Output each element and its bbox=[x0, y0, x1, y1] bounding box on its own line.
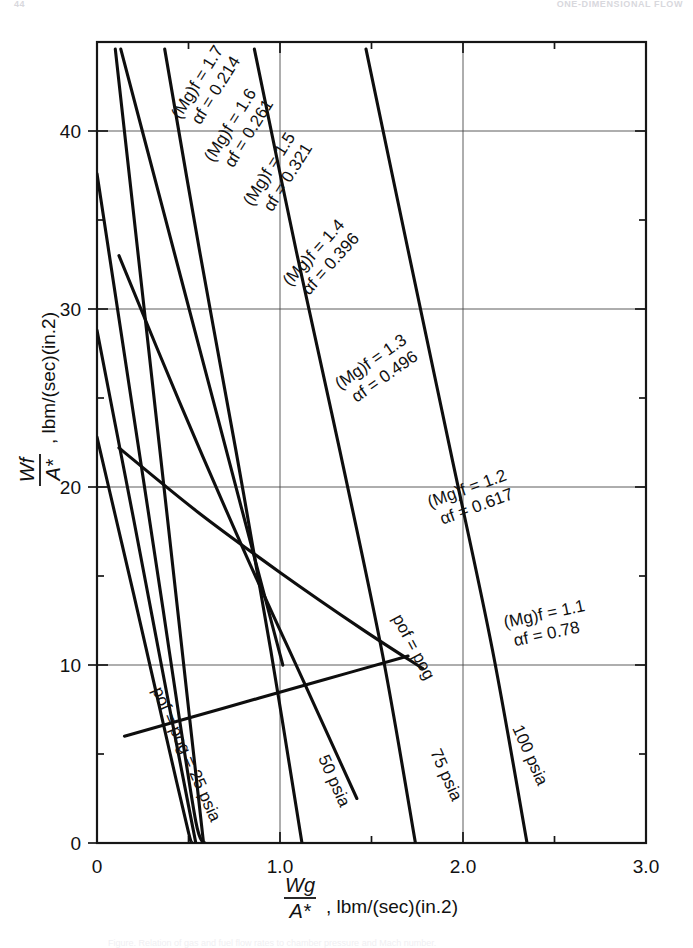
x-axis-tick-labels: 01.02.03.0 bbox=[92, 856, 660, 877]
y-tick-label: 30 bbox=[60, 299, 81, 320]
curve-Mg_f_1.3 bbox=[119, 256, 357, 799]
x-tick-label: 3.0 bbox=[633, 856, 659, 877]
x-tick-label: 2.0 bbox=[450, 856, 476, 877]
curve-annotations: (Mg)f = 1.7αf = 0.214(Mg)f = 1.6αf = 0.2… bbox=[148, 42, 591, 825]
curve-p_100_psia bbox=[366, 49, 527, 843]
svg-text:, lbm/(sec)(in.2): , lbm/(sec)(in.2) bbox=[326, 896, 458, 917]
x-axis-title: Wg A* , lbm/(sec)(in.2) bbox=[284, 874, 458, 922]
data-curves bbox=[97, 49, 527, 855]
y-tick-label: 10 bbox=[60, 655, 81, 676]
lbl-p75-line1: 75 psia bbox=[426, 746, 466, 804]
x-axis-denominator: A* bbox=[288, 900, 311, 922]
lbl-mach-12: (Mg)f = 1.2αf = 0.617 bbox=[425, 466, 516, 531]
y-axis-numerator: Wf bbox=[16, 455, 38, 482]
lbl-mach-13: (Mg)f = 1.3αf = 0.496 bbox=[331, 330, 421, 409]
y-tick-label: 40 bbox=[60, 121, 81, 142]
svg-text:Wg: Wg bbox=[285, 874, 315, 896]
y-axis-title: Wf A* , lbm/(sec)(in.2) bbox=[16, 312, 64, 486]
y-tick-label: 0 bbox=[70, 833, 81, 854]
x-axis-numerator: Wg bbox=[285, 874, 315, 896]
y-axis-units: , lbm/(sec)(in.2) bbox=[38, 312, 59, 444]
svg-text:, lbm/(sec)(in.2): , lbm/(sec)(in.2) bbox=[38, 312, 59, 444]
y-axis-tick-labels: 010203040 bbox=[60, 121, 81, 854]
svg-text:A*: A* bbox=[42, 458, 64, 481]
x-tick-label: 0 bbox=[92, 856, 103, 877]
lbl-p100-top: pof = pog bbox=[388, 611, 438, 683]
lbl-mach-11: (Mg)f = 1.1αf = 0.78 bbox=[502, 596, 591, 651]
x-axis-units: , lbm/(sec)(in.2) bbox=[326, 896, 458, 917]
y-axis-denominator: A* bbox=[42, 458, 64, 481]
lbl-p75: 75 psia bbox=[426, 746, 466, 804]
lbl-p100-top-line1: pof = pog bbox=[388, 611, 438, 683]
svg-text:A*: A* bbox=[288, 900, 311, 922]
svg-text:Wf: Wf bbox=[16, 455, 38, 482]
